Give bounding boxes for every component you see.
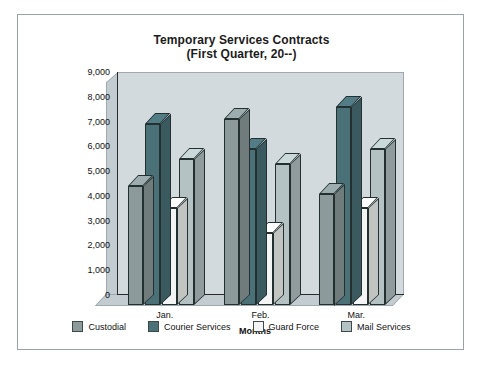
- bar-side-face: [290, 154, 301, 305]
- y-axis-tick-label: 5,000: [87, 166, 117, 176]
- bar-side-face: [194, 149, 205, 305]
- chart-title: Temporary Services Contracts (First Quar…: [18, 33, 465, 61]
- bar-side-face: [239, 109, 250, 305]
- bar-side-face: [143, 176, 154, 305]
- legend-swatch: [341, 321, 352, 332]
- bar-side-face: [160, 114, 171, 305]
- bar: [128, 186, 143, 305]
- legend-swatch: [148, 321, 159, 332]
- legend-item: Custodial: [72, 321, 126, 332]
- bar-side-face: [256, 139, 267, 305]
- y-axis-tick-label: 7,000: [87, 117, 117, 127]
- y-axis-tick-label: 2,000: [87, 240, 117, 250]
- y-axis-tick-label: 9,000: [87, 67, 117, 77]
- x-axis-tick-label: Mar.: [347, 310, 365, 320]
- legend-item: Courier Services: [148, 321, 231, 332]
- y-axis-tick-label: 0: [105, 290, 117, 300]
- x-axis-tick-label: Feb.: [251, 310, 269, 320]
- chart-title-line1: Temporary Services Contracts: [154, 33, 330, 47]
- y-axis-tick-label: 3,000: [87, 216, 117, 226]
- legend-label: Custodial: [88, 322, 126, 332]
- legend-label: Mail Services: [357, 322, 411, 332]
- bar-side-face: [334, 183, 345, 305]
- bar-side-face: [385, 139, 396, 305]
- y-axis-line: [117, 72, 118, 295]
- legend-swatch: [72, 321, 83, 332]
- bar-front-face: [224, 119, 239, 305]
- y-axis-tick-label: 8,000: [87, 92, 117, 102]
- chart-legend: CustodialCourier ServicesGuard ForceMail…: [18, 321, 465, 332]
- plot-area: Dollars Spent 01,0002,0003,0004,0005,000…: [106, 72, 404, 306]
- y-axis-tick-label: 1,000: [87, 265, 117, 275]
- bar-front-face: [128, 186, 143, 305]
- y-axis-tick-label: 6,000: [87, 141, 117, 151]
- legend-swatch: [253, 321, 264, 332]
- chart-title-line2: (First Quarter, 20--): [18, 47, 465, 61]
- legend-label: Courier Services: [164, 322, 231, 332]
- legend-label: Guard Force: [269, 322, 320, 332]
- bar: [224, 119, 239, 305]
- legend-item: Mail Services: [341, 321, 411, 332]
- legend-item: Guard Force: [253, 321, 320, 332]
- y-axis-tick-label: 4,000: [87, 191, 117, 201]
- bar-side-face: [273, 223, 284, 305]
- bar-front-face: [319, 194, 334, 306]
- bar: [319, 194, 334, 306]
- x-axis-tick-label: Jan.: [156, 310, 173, 320]
- bar-side-face: [368, 198, 379, 305]
- bar-side-face: [351, 97, 362, 305]
- chart-frame: Temporary Services Contracts (First Quar…: [17, 14, 464, 350]
- bar-side-face: [177, 198, 188, 305]
